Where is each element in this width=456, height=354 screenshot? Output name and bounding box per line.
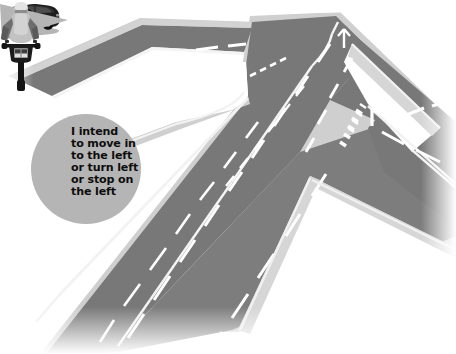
- bubble-line-4: or turn left: [71, 162, 143, 174]
- motorcyclist-rear-view-icon: [0, 0, 42, 92]
- bubble-line-6: the left: [71, 186, 143, 198]
- bubble-line-3: to the left: [71, 150, 143, 162]
- bubble-line-5: or stop on: [71, 174, 143, 186]
- speech-bubble-text: I intend to move in to the left or turn …: [71, 126, 143, 197]
- illustration-canvas: I intend to move in to the left or turn …: [0, 0, 456, 354]
